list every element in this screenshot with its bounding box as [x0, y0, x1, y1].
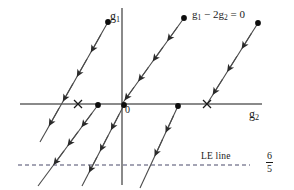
- origin-label: 0: [125, 105, 130, 115]
- fraction-numerator: 6: [266, 151, 273, 161]
- fraction-label: 6 5: [266, 151, 273, 174]
- y-axis-label: g1: [110, 10, 120, 24]
- trajectory-right-upper-branch: [207, 23, 258, 104]
- trajectory-upper-left-branch: [40, 22, 108, 142]
- x-axis-label: g2: [249, 108, 259, 122]
- le-line-label: LE line: [201, 152, 231, 162]
- trajectory-lower-left-branch: [38, 105, 98, 186]
- equation-rhs: = 0: [228, 8, 245, 20]
- dot-axis-left: [95, 102, 101, 108]
- dot-upper-right: [255, 20, 261, 26]
- diagram-canvas: [0, 0, 294, 190]
- equation-label: g1 − 2g2 = 0: [192, 9, 245, 21]
- dot-axis-right: [175, 103, 181, 109]
- equation-operator: − 2: [201, 8, 218, 20]
- dot-upper-middle: [181, 15, 187, 21]
- endpoint-dot-group: [95, 15, 261, 109]
- trajectory-lower-right-branch: [140, 106, 178, 188]
- x-axis-label-sub: 2: [255, 113, 259, 122]
- fraction-denominator: 5: [266, 164, 273, 174]
- phase-portrait-figure: g1 g2 0 g1 − 2g2 = 0 LE line 6 5: [0, 0, 294, 190]
- trajectory-middle-upper-branch: [122, 18, 184, 104]
- y-axis-label-sub: 1: [116, 15, 120, 24]
